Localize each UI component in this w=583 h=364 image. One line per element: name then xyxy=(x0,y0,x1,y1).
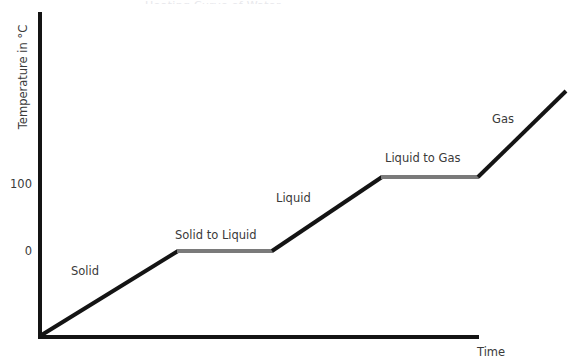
annotation-liquid-to-gas: Liquid to Gas xyxy=(385,151,461,165)
annotation-solid-to-liquid: Solid to Liquid xyxy=(175,228,257,242)
annotation-liquid: Liquid xyxy=(276,191,311,205)
curve-segments xyxy=(40,91,566,336)
segment-solid-ramp xyxy=(40,251,178,336)
heating-curve-figure: Heating Curve of Water Temperature in °C… xyxy=(0,0,583,364)
segment-gas-ramp xyxy=(478,91,566,177)
annotation-solid: Solid xyxy=(71,264,99,278)
annotation-gas: Gas xyxy=(492,112,514,126)
heating-curve-plot xyxy=(0,0,583,364)
segment-liquid-ramp xyxy=(272,177,382,251)
